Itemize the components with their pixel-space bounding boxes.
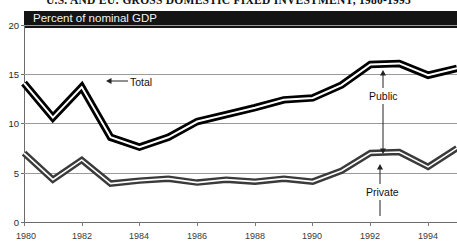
x-tick-label-1986: 1986 bbox=[187, 231, 207, 241]
chart-data-layer bbox=[0, 0, 457, 248]
y-tick-label-5: 5 bbox=[0, 168, 19, 179]
figure-title: U.S. AND EU: GROSS DOMESTIC FIXED INVEST… bbox=[0, 0, 457, 6]
y-tick-mark-15 bbox=[21, 74, 24, 75]
x-tick-label-1988: 1988 bbox=[245, 231, 265, 241]
gridline-20 bbox=[24, 25, 457, 26]
y-tick-label-15: 15 bbox=[0, 69, 19, 80]
header-band-label: Percent of nominal GDP bbox=[33, 12, 157, 24]
y-tick-mark-20 bbox=[21, 25, 24, 26]
x-axis-line bbox=[24, 222, 457, 223]
x-tick-mark-1980 bbox=[24, 222, 25, 226]
y-tick-label-0: 0 bbox=[0, 217, 19, 228]
x-tick-label-1984: 1984 bbox=[129, 231, 149, 241]
x-tick-mark-1988 bbox=[255, 222, 256, 226]
x-tick-mark-1982 bbox=[82, 222, 83, 226]
x-tick-label-1982: 1982 bbox=[72, 231, 92, 241]
series-total-band bbox=[24, 63, 457, 147]
x-tick-label-1994: 1994 bbox=[418, 231, 438, 241]
x-tick-label-1992: 1992 bbox=[360, 231, 380, 241]
gridline-10 bbox=[24, 123, 457, 124]
annotation-leader-lines bbox=[106, 70, 386, 216]
x-tick-mark-1992 bbox=[370, 222, 371, 226]
annotation-public: Public bbox=[369, 90, 398, 102]
annotation-private: Private bbox=[366, 186, 399, 198]
y-tick-label-20: 20 bbox=[0, 20, 19, 31]
x-tick-mark-1994 bbox=[428, 222, 429, 226]
y-tick-mark-10 bbox=[21, 123, 24, 124]
annotation-total: Total bbox=[130, 76, 152, 88]
x-tick-mark-1990 bbox=[312, 222, 313, 226]
gridline-15 bbox=[24, 74, 457, 75]
series-private-band bbox=[24, 148, 457, 183]
gridline-5 bbox=[24, 173, 457, 174]
x-tick-mark-1984 bbox=[139, 222, 140, 226]
y-tick-mark-5 bbox=[21, 173, 24, 174]
x-tick-mark-1986 bbox=[197, 222, 198, 226]
y-tick-label-10: 10 bbox=[0, 118, 19, 129]
x-tick-label-1980: 1980 bbox=[16, 231, 36, 241]
y-axis-line bbox=[24, 25, 25, 223]
x-tick-label-1990: 1990 bbox=[302, 231, 322, 241]
